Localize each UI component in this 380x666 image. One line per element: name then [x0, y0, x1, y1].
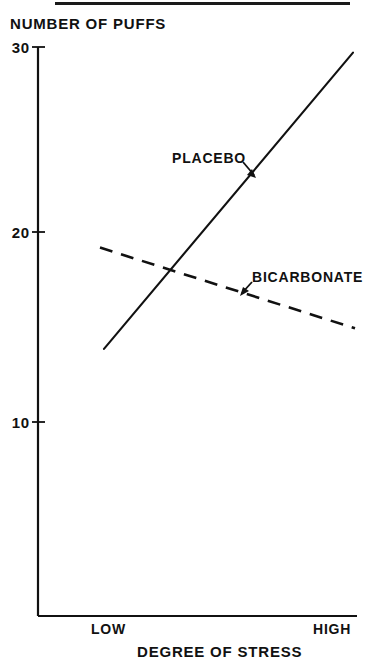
series-line-placebo	[104, 53, 353, 349]
series-line-bicarbonate	[100, 248, 355, 329]
chart-plot-area	[0, 0, 380, 666]
chart-figure: NUMBER OF PUFFS 30 20 10 LOW HIGH DEGREE…	[0, 0, 380, 666]
